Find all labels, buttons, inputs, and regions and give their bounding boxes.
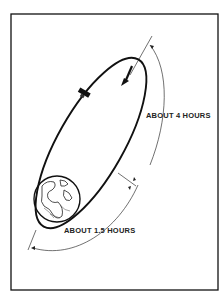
arc-arrowhead-mid-down — [128, 186, 131, 190]
arc-arrowhead-bottom — [31, 246, 35, 250]
short-duration-label: ABOUT 1.5 HOURS — [64, 226, 135, 235]
earth-icon — [34, 176, 80, 222]
direction-arrow-icon — [121, 66, 132, 86]
split-extension-line — [118, 173, 136, 186]
arc-arrowhead-mid-up — [133, 177, 136, 181]
arc-arrowhead-top — [150, 45, 154, 49]
long-duration-arc — [150, 45, 164, 165]
orbit-diagram: ABOUT 4 HOURS ABOUT 1.5 HOURS — [0, 0, 224, 295]
frame-border — [11, 14, 218, 290]
apogee-extension-line — [130, 36, 152, 75]
long-duration-label: ABOUT 4 HOURS — [146, 111, 211, 120]
